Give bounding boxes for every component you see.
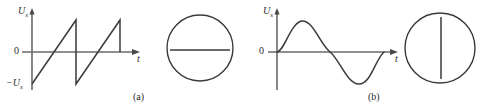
panel-b: Us 0 t (b) [242, 0, 484, 112]
scope-circle-a [167, 15, 233, 81]
panel-b-caption: (b) [368, 92, 380, 102]
panel-b-y-axis [274, 8, 279, 90]
figure-container: Us 0 −Us t (a) [0, 0, 484, 112]
panel-b-scope-display [405, 13, 475, 83]
panel-a-graphic [0, 0, 242, 112]
panel-a: Us 0 −Us t (a) [0, 0, 242, 112]
panel-a-origin-label: 0 [14, 46, 19, 56]
panel-a-scope-display [167, 15, 233, 81]
panel-b-x-axis-label: t [395, 54, 398, 64]
panel-a-y-axis-label: Us [18, 6, 28, 19]
scope-circle-b [405, 13, 475, 83]
panel-a-y-axis [29, 8, 34, 90]
panel-a-caption: (a) [133, 92, 144, 102]
panel-a-negative-amplitude-label: −Us [6, 78, 23, 91]
panel-a-x-axis [22, 49, 140, 55]
panel-b-origin-label: 0 [259, 46, 264, 56]
panel-b-y-axis-label: Us [263, 6, 273, 19]
panel-b-graphic [242, 0, 484, 112]
panel-a-x-axis-label: t [137, 54, 140, 64]
